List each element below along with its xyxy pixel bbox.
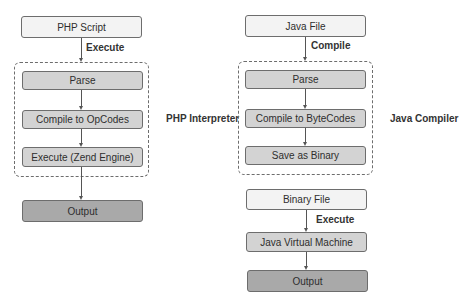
java-output-node: Output xyxy=(247,270,368,292)
php-edge-compile-execute xyxy=(81,129,82,143)
php-script-label: PHP Script xyxy=(57,22,106,33)
java-save-node: Save as Binary xyxy=(245,146,366,165)
java-execute-label: Execute xyxy=(316,214,354,225)
php-execute-label: Execute xyxy=(86,42,124,53)
php-execute-node: Execute (Zend Engine) xyxy=(22,147,143,167)
php-edge-to-output xyxy=(81,167,82,196)
java-compile-node: Compile to ByteCodes xyxy=(245,109,366,128)
java-edge-parse-compile xyxy=(305,89,306,105)
java-output-label: Output xyxy=(292,276,322,287)
php-edge-parse-compile xyxy=(81,90,82,106)
php-compile-label: Compile to OpCodes xyxy=(36,114,129,125)
java-parse-node: Parse xyxy=(245,70,366,89)
php-execute-zend-label: Execute (Zend Engine) xyxy=(31,152,133,163)
jvm-node: Java Virtual Machine xyxy=(246,232,367,252)
binary-file-node: Binary File xyxy=(246,189,367,210)
java-compile-edge xyxy=(305,37,306,58)
java-save-binary-label: Save as Binary xyxy=(272,150,339,161)
php-interpreter-label: PHP Interpreter xyxy=(166,113,239,124)
java-compiler-label: Java Compiler xyxy=(390,113,458,124)
java-compile-label: Compile xyxy=(311,40,350,51)
java-edge-to-output xyxy=(306,252,307,266)
php-script-node: PHP Script xyxy=(21,16,142,38)
php-output-node: Output xyxy=(22,200,143,222)
java-file-label: Java File xyxy=(285,21,325,32)
php-compile-node: Compile to OpCodes xyxy=(22,110,143,129)
php-parse-node: Parse xyxy=(22,71,143,90)
java-parse-label: Parse xyxy=(292,74,318,85)
java-edge-compile-save xyxy=(305,128,306,142)
php-output-label: Output xyxy=(67,206,97,217)
php-parse-label: Parse xyxy=(69,75,95,86)
php-execute-edge xyxy=(81,38,82,59)
binary-file-label: Binary File xyxy=(283,194,330,205)
java-file-node: Java File xyxy=(245,15,366,37)
java-compile-bytecodes-label: Compile to ByteCodes xyxy=(256,113,356,124)
java-execute-edge xyxy=(306,210,307,228)
jvm-label: Java Virtual Machine xyxy=(260,237,353,248)
